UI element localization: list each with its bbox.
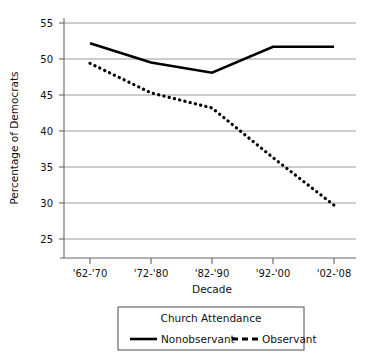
y-tick-label-55: 55 — [40, 18, 53, 29]
y-tick-label-40: 40 — [40, 126, 53, 137]
x-tick-label-1: '72-'80 — [134, 268, 169, 279]
y-tick-label-25: 25 — [40, 234, 53, 245]
x-tick-label-0: '62-'70 — [73, 268, 108, 279]
y-axis-title: Percentage of Democrats — [8, 71, 20, 204]
x-tick-label-3: '92-'00 — [256, 268, 291, 279]
y-tick-label-45: 45 — [40, 90, 53, 101]
y-tick-label-30: 30 — [40, 198, 53, 209]
chart-container: 55 50 45 40 35 30 25 '62-'70 '72-'80 '82… — [0, 0, 368, 354]
y-tick-label-50: 50 — [40, 54, 53, 65]
line-chart: 55 50 45 40 35 30 25 '62-'70 '72-'80 '82… — [0, 0, 368, 354]
legend-title: Church Attendance — [161, 312, 262, 324]
x-tick-label-4: '02-'08 — [317, 268, 352, 279]
chart-background — [0, 0, 368, 354]
legend-label-observant: Observant — [262, 333, 317, 345]
x-axis-title: Decade — [192, 283, 232, 295]
y-tick-label-35: 35 — [40, 162, 53, 173]
legend-label-nonobservant: Nonobservant — [161, 333, 235, 345]
legend: Church Attendance Nonobservant Observant — [118, 307, 317, 350]
x-tick-label-2: '82-'90 — [195, 268, 230, 279]
